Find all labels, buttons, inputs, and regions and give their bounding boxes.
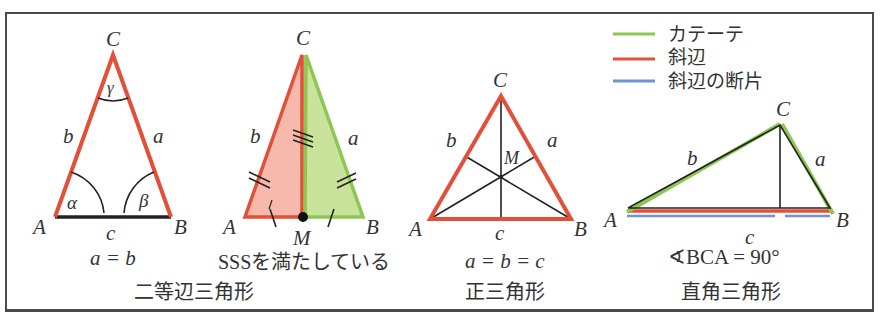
equilateral-title: 正三角形: [465, 281, 545, 303]
rt-relation: ∢BCA = 90°: [668, 245, 780, 269]
legend-label-segment: 斜辺の断片: [668, 71, 763, 92]
sss-side-b-label: b: [250, 124, 261, 148]
eq-vertex-B-label: B: [574, 217, 587, 241]
eq-vertex-C-label: C: [493, 68, 508, 92]
angle-alpha-label: α: [67, 192, 78, 213]
right-triangle-title: 直角三角形: [681, 281, 781, 303]
legend-label-cathetus: カテーテ: [668, 24, 744, 45]
vertex-A-label: A: [31, 215, 46, 239]
sss-caption: SSSを満たしている: [218, 251, 390, 273]
rt-side-a-label: a: [815, 147, 826, 171]
vertex-C-label: C: [106, 27, 121, 51]
eq-vertex-A-label: A: [407, 217, 422, 241]
eq-vertex-M-label: M: [503, 148, 520, 168]
sss-side-a-label: a: [348, 126, 359, 150]
right-triangle-figure: C A B b a c ∢BCA = 90°: [602, 97, 849, 269]
diagram-stage: C A B b a c α β γ a = b 二等辺三角形: [0, 0, 880, 324]
legend-label-hypotenuse: 斜辺: [668, 47, 706, 68]
isosceles-title: 二等辺三角形: [134, 281, 254, 303]
angle-gamma-label: γ: [107, 78, 115, 97]
sss-vertex-A-label: A: [221, 215, 236, 239]
isosceles-triangle-figure: C A B b a c α β γ a = b: [31, 27, 187, 270]
sss-vertex-M-label: M: [292, 226, 312, 250]
equilateral-triangle-figure: C A B M b a c a = b = c: [407, 68, 587, 273]
eq-side-b-label: b: [446, 128, 457, 152]
sss-triangle-figure: C A B M b a SSSを満たしている: [218, 26, 390, 273]
side-c-label: c: [106, 221, 116, 245]
vertex-B-label: B: [174, 215, 187, 239]
rt-vertex-B-label: B: [836, 208, 849, 232]
rt-vertex-C-label: C: [776, 97, 791, 121]
sss-vertex-C-label: C: [296, 26, 311, 50]
rt-vertex-A-label: A: [602, 208, 617, 232]
eq-side-a-label: a: [547, 128, 558, 152]
side-b-label: b: [63, 124, 74, 148]
legend: カテーテ 斜辺 斜辺の断片: [613, 24, 763, 92]
rt-side-b-label: b: [687, 146, 698, 170]
sss-vertex-B-label: B: [366, 215, 379, 239]
isosceles-relation: a = b: [90, 246, 136, 270]
side-a-label: a: [153, 124, 164, 148]
eq-side-c-label: c: [495, 221, 505, 245]
eq-relation: a = b = c: [465, 249, 545, 273]
angle-beta-label: β: [138, 190, 149, 211]
